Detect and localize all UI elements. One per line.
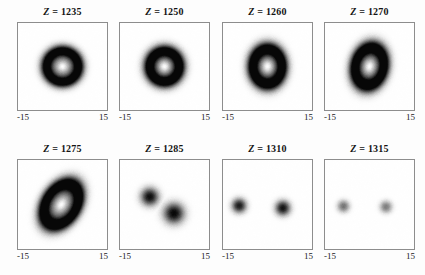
intensity-map: [223, 23, 312, 110]
profile-panel: Z = 1275 -15 15: [17, 143, 108, 262]
panel-frame: [324, 22, 415, 111]
intensity-map: [120, 160, 209, 249]
z-value: 1315: [368, 143, 389, 154]
intensity-map: [325, 23, 414, 110]
intensity-map: [325, 160, 414, 249]
panel-frame: [222, 159, 313, 250]
panel-title: Z = 1315: [324, 143, 415, 154]
intensity-map: [18, 160, 107, 249]
axis-tick-max: 15: [201, 112, 210, 122]
z-separator: =: [255, 143, 266, 154]
axis-tick-max: 15: [201, 251, 210, 261]
z-separator: =: [152, 143, 163, 154]
axis-tick-max: 15: [99, 112, 108, 122]
z-value: 1275: [61, 143, 82, 154]
z-separator: =: [50, 6, 61, 17]
axis-tick-min: -15: [222, 251, 234, 261]
z-value: 1270: [368, 6, 389, 17]
profile-panel: Z = 1260 -15 15: [222, 6, 313, 122]
panel-title: Z = 1235: [17, 6, 108, 17]
intensity-map: [120, 23, 209, 110]
axis-tick-max: 15: [99, 251, 108, 261]
axis-tick-min: -15: [222, 112, 234, 122]
panel-title: Z = 1310: [222, 143, 313, 154]
panel-frame: [17, 159, 108, 250]
profile-panel: Z = 1250 -15 15: [119, 6, 210, 122]
axis-tick-min: -15: [17, 112, 29, 122]
profile-panel: Z = 1310 -15 15: [222, 143, 313, 262]
panel-frame: [119, 159, 210, 250]
profile-panel: Z = 1235 -15 15: [17, 6, 108, 122]
axis-tick-min: -15: [119, 112, 131, 122]
z-separator: =: [50, 143, 61, 154]
z-value: 1285: [163, 143, 184, 154]
axis-tick-min: -15: [119, 251, 131, 261]
panel-title: Z = 1260: [222, 6, 313, 17]
z-separator: =: [255, 6, 266, 17]
profile-panel: Z = 1270 -15 15: [324, 6, 415, 122]
panel-title: Z = 1275: [17, 143, 108, 154]
panel-frame: [324, 159, 415, 250]
axis-tick-max: 15: [406, 251, 415, 261]
profile-panel: Z = 1315 -15 15: [324, 143, 415, 262]
z-value: 1250: [163, 6, 184, 17]
z-value: 1310: [266, 143, 287, 154]
panel-frame: [119, 22, 210, 111]
intensity-map: [18, 23, 107, 110]
z-separator: =: [152, 6, 163, 17]
axis-tick-min: -15: [324, 251, 336, 261]
panel-title: Z = 1270: [324, 6, 415, 17]
axis-tick-min: -15: [17, 251, 29, 261]
z-value: 1235: [61, 6, 82, 17]
profile-panel: Z = 1285 -15 15: [119, 143, 210, 262]
z-value: 1260: [266, 6, 287, 17]
beam-profile-figure: Z = 1235 -15 15 Z = 1250 -15 15 Z = 1260…: [0, 0, 425, 275]
z-separator: =: [357, 6, 368, 17]
axis-tick-max: 15: [406, 112, 415, 122]
axis-tick-max: 15: [304, 251, 313, 261]
panel-title: Z = 1285: [119, 143, 210, 154]
panel-frame: [222, 22, 313, 111]
panel-title: Z = 1250: [119, 6, 210, 17]
intensity-map: [223, 160, 312, 249]
axis-tick-min: -15: [324, 112, 336, 122]
panel-frame: [17, 22, 108, 111]
axis-tick-max: 15: [304, 112, 313, 122]
z-separator: =: [357, 143, 368, 154]
